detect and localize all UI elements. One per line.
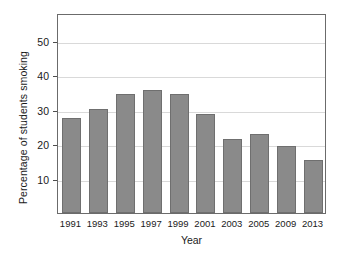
bar	[89, 109, 108, 213]
y-tick-label-wrap: 10	[27, 175, 49, 185]
y-tick-label-wrap: 40	[27, 71, 49, 81]
bar	[250, 134, 269, 213]
y-tick-label-wrap: 20	[27, 140, 49, 150]
bars-layer	[58, 15, 325, 213]
bar-chart-figure: Percentage of students smoking 102030405…	[0, 0, 351, 255]
plot-area	[57, 14, 326, 214]
y-tick-label: 30	[27, 106, 49, 116]
bar	[116, 94, 135, 213]
x-axis-title: Year	[57, 234, 326, 247]
bar	[196, 114, 215, 213]
bar	[223, 139, 242, 213]
y-tick-label: 10	[27, 175, 49, 185]
bar	[143, 90, 162, 213]
bar	[170, 94, 189, 213]
y-tick-label: 50	[27, 37, 49, 47]
bar	[304, 160, 323, 213]
y-tick-label: 40	[27, 71, 49, 81]
y-tick-label: 20	[27, 140, 49, 150]
y-tick-label-wrap: 30	[27, 106, 49, 116]
x-tick-label: 2013	[296, 218, 330, 230]
bar	[277, 146, 296, 213]
bar	[62, 118, 81, 213]
y-tick-label-wrap: 50	[27, 37, 49, 47]
